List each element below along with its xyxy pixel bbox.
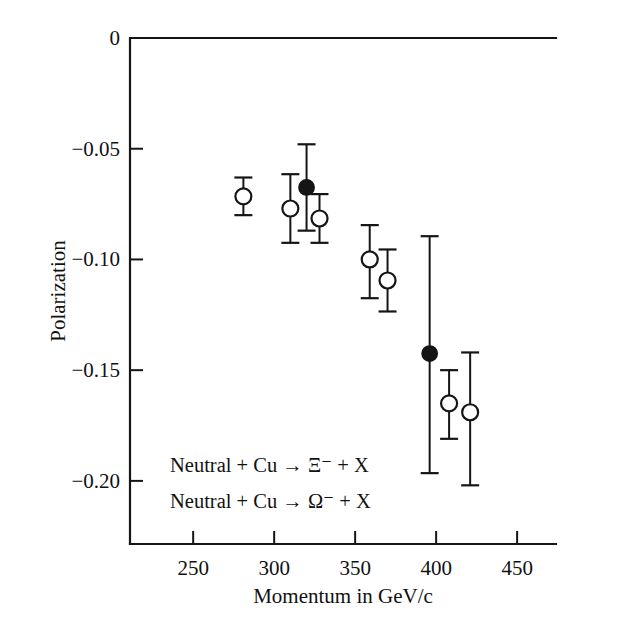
legend-line-xi: Neutral + Cu → Ξ⁻ + X xyxy=(170,454,369,476)
data-point-open xyxy=(235,188,251,204)
data-point-open xyxy=(362,251,378,267)
data-point-filled xyxy=(299,180,314,195)
data-point-filled xyxy=(422,346,437,361)
x-axis-title: Momentum in GeV/c xyxy=(253,584,433,608)
x-tick-label: 400 xyxy=(420,556,452,580)
legend-line-omega: Neutral + Cu → Ω⁻ + X xyxy=(170,490,371,512)
figure-background xyxy=(0,0,627,634)
y-tick-label: −0.05 xyxy=(71,137,120,161)
x-tick-label: 350 xyxy=(339,556,371,580)
x-tick-label: 300 xyxy=(258,556,290,580)
y-tick-label: −0.20 xyxy=(71,469,120,493)
data-point-open xyxy=(282,201,298,217)
x-tick-label: 250 xyxy=(177,556,209,580)
y-tick-label: −0.10 xyxy=(71,247,120,271)
chart-canvas: 0−0.05−0.10−0.15−0.20 250300350400450 Po… xyxy=(0,0,627,634)
y-axis-title: Polarization xyxy=(46,240,70,342)
x-tick-label: 450 xyxy=(501,556,533,580)
data-point-open xyxy=(312,210,328,226)
data-point-open xyxy=(380,272,396,288)
y-tick-label: −0.15 xyxy=(71,358,120,382)
data-point-open xyxy=(462,404,478,420)
polarization-vs-momentum-figure: 0−0.05−0.10−0.15−0.20 250300350400450 Po… xyxy=(0,0,627,634)
data-point-open xyxy=(441,395,457,411)
y-tick-label: 0 xyxy=(110,26,121,50)
